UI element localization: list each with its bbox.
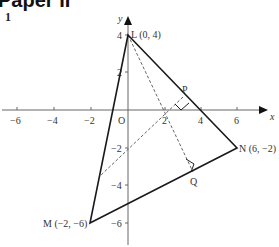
point-label-Q: Q	[190, 176, 198, 187]
point-label-P: P	[182, 84, 188, 95]
x-tick-label: 6	[234, 115, 239, 126]
x-tick-label: 4	[198, 115, 203, 126]
point-label-L: L (0, 4)	[131, 29, 161, 41]
triangle-LMN	[90, 35, 237, 223]
y-axis-label: y	[117, 13, 123, 24]
x-tick-label: −2	[84, 115, 95, 126]
point-label-M: M (−2, −6)	[43, 218, 87, 230]
x-tick-label: −6	[10, 115, 21, 126]
x-axis-arrow-icon	[259, 106, 268, 114]
right-angle-marker-P	[175, 103, 189, 110]
y-axis-arrow-icon	[124, 16, 132, 25]
y-tick-label: 4	[117, 30, 122, 41]
x-tick-label: −4	[47, 115, 58, 126]
y-tick-label: −6	[111, 218, 122, 229]
y-tick-label: −4	[111, 180, 122, 191]
coordinate-diagram: x y O −6 −4 −2 2 4 6 4 2 −2 −4 −6 L (0, …	[0, 0, 279, 247]
origin-label: O	[118, 115, 125, 126]
y-tick-label: −2	[111, 143, 122, 154]
point-label-N: N (6, −2)	[239, 143, 276, 155]
x-axis-label: x	[269, 111, 275, 122]
dashed-line-LQ	[128, 35, 193, 172]
